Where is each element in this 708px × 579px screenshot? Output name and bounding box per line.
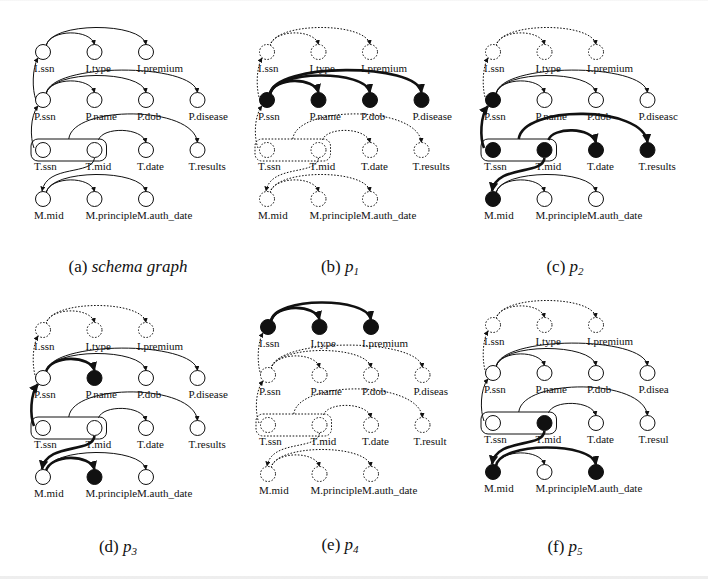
node-label-i-ssn: I.ssn <box>258 62 279 74</box>
caption-d: (d) p3 <box>99 537 138 557</box>
node-label-m-auth-date: M.auth_date <box>137 487 192 499</box>
node-label-m-principle: M.principle <box>310 209 362 221</box>
edge-i-ssn-i-type <box>271 308 320 321</box>
edge-t-t-date <box>549 130 597 142</box>
node-p-disease <box>190 93 205 108</box>
node-p-dob <box>589 366 604 381</box>
node-label-p-dob: P.dob <box>137 110 162 122</box>
node-label-i-premium: I.premium <box>137 62 184 74</box>
node-p-ssn <box>260 93 275 108</box>
node-label-i-ssn: I.ssn <box>34 340 55 352</box>
panel-f: I.ssnI.typeI.premiumP.ssnP.nameP.dobP.di… <box>481 300 669 557</box>
node-label-m-auth-date: M.auth_date <box>587 482 642 494</box>
node-label-t-date: T.date <box>137 438 164 450</box>
node-p-dob <box>139 371 154 386</box>
edge-i-ssn-i-type <box>46 311 95 324</box>
node-i-type <box>87 323 102 338</box>
node-t-date <box>589 416 604 431</box>
node-label-i-ssn: I.ssn <box>484 62 505 74</box>
node-label-m-principle: M.principle <box>86 209 138 221</box>
node-t-mid <box>537 143 552 158</box>
node-label-t-ssn: T.ssn <box>259 435 282 447</box>
node-t-date <box>139 421 154 436</box>
edge-p-ssn-p-dob <box>496 348 596 367</box>
edge-i-ssn-i-type <box>270 33 319 46</box>
node-m-principle <box>87 470 102 485</box>
node-label-m-mid: M.mid <box>34 487 64 499</box>
node-label-p-dob: P.dob <box>361 110 386 122</box>
node-i-ssn <box>36 323 51 338</box>
node-label-p-disease: P.disease <box>189 110 229 122</box>
panel-c: I.ssnI.typeI.premiumP.ssnP.nameP.dobP.di… <box>481 27 678 277</box>
node-m-auth-date <box>589 192 604 207</box>
edge-t-t-date <box>99 130 147 142</box>
edge-m-mid-m-principle <box>496 453 545 466</box>
node-p-disease <box>414 93 429 108</box>
node-t-date <box>589 143 604 158</box>
node-m-principle <box>311 192 326 207</box>
caption-a: (a) schema graph <box>69 257 188 276</box>
edge-p-ssn-p-name <box>46 81 95 94</box>
edge-i-ssn-i-premium <box>270 27 370 46</box>
node-label-t-mid: T.mid <box>86 160 112 172</box>
node-t-date <box>139 143 154 158</box>
node-i-premium <box>364 320 379 335</box>
node-t-mid <box>87 143 102 158</box>
node-label-m-auth-date: M.auth_date <box>137 209 192 221</box>
edge-i-ssn-i-premium <box>496 300 596 319</box>
edge-m-mid-m-principle <box>46 458 95 471</box>
edge-p-ssn-p-dob <box>46 75 146 94</box>
node-i-premium <box>139 45 154 60</box>
caption-c: (c) p2 <box>546 257 584 277</box>
node-p-name <box>87 93 102 108</box>
node-p-dob <box>589 93 604 108</box>
edge-p-ssn-p-dob <box>46 353 146 372</box>
node-i-type <box>537 318 552 333</box>
edge-m-mid-m-auth-date <box>270 174 370 193</box>
node-label-p-ssn: P.ssn <box>34 388 56 400</box>
node-label-m-auth-date: M.auth_date <box>361 209 416 221</box>
node-m-auth-date <box>139 470 154 485</box>
node-label-m-principle: M.principle <box>311 484 363 496</box>
node-t-results <box>415 418 430 433</box>
node-t-date <box>364 418 379 433</box>
edge-i-ssn-i-type <box>496 33 545 46</box>
node-label-m-mid: M.mid <box>259 484 289 496</box>
edge-p-ssn-p-name <box>496 81 545 94</box>
node-p-name <box>537 93 552 108</box>
node-t-results <box>414 143 429 158</box>
node-label-i-type: I.type <box>536 335 561 347</box>
node-p-dob <box>364 368 379 383</box>
edge-t-t-date <box>99 408 147 420</box>
node-m-auth-date <box>364 467 379 482</box>
cropped-header-text <box>0 0 708 6</box>
node-label-i-type: I.type <box>536 62 561 74</box>
node-m-principle <box>312 467 327 482</box>
edge-t-t-date <box>323 130 371 142</box>
node-p-dob <box>363 93 378 108</box>
edge-t-t-date <box>324 405 372 417</box>
node-label-t-date: T.date <box>137 160 164 172</box>
node-label-t-results: T.resul <box>639 433 669 445</box>
edge-i-ssn-i-type <box>46 33 95 46</box>
node-m-principle <box>537 465 552 480</box>
edge-i-ssn-i-type <box>496 306 545 319</box>
node-i-premium <box>589 45 604 60</box>
node-p-name <box>312 368 327 383</box>
node-label-t-mid: T.mid <box>536 433 562 445</box>
node-label-p-ssn: P.ssn <box>259 385 281 397</box>
node-label-t-mid: T.mid <box>311 435 337 447</box>
node-p-disease <box>190 371 205 386</box>
node-label-m-auth-date: M.auth_date <box>362 484 417 496</box>
node-label-i-premium: I.premium <box>587 335 634 347</box>
edge-m-mid-m-principle <box>496 180 545 193</box>
edge-m-mid-m-auth-date <box>271 449 371 468</box>
node-p-disease <box>415 368 430 383</box>
node-label-m-principle: M.principle <box>536 482 588 494</box>
node-i-ssn <box>36 45 51 60</box>
node-label-p-disease: P.disease <box>413 110 453 122</box>
node-label-p-name: P.name <box>86 110 118 122</box>
node-p-ssn <box>261 368 276 383</box>
node-label-t-results: T.results <box>639 160 676 172</box>
node-i-type <box>87 45 102 60</box>
